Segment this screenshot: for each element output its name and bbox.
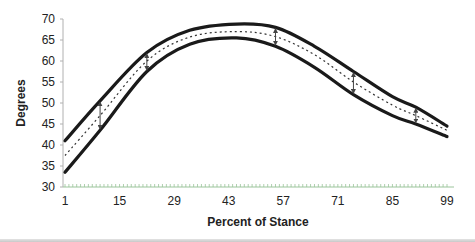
lower-bound-line (65, 38, 447, 172)
y-tick-label: 30 (42, 180, 56, 194)
x-axis: 115294357718599 (62, 184, 454, 208)
y-tick-label: 50 (42, 96, 56, 110)
x-tick-label: 29 (167, 194, 181, 208)
x-tick-label: 99 (440, 194, 454, 208)
y-tick-label: 35 (42, 159, 56, 173)
x-tick-label: 43 (222, 194, 236, 208)
y-tick-label: 55 (42, 75, 56, 89)
y-axis: 303540455055606570 (42, 12, 63, 194)
x-tick-label: 15 (113, 194, 127, 208)
y-tick-label: 65 (42, 33, 56, 47)
x-tick-label: 71 (331, 194, 345, 208)
y-tick-label: 45 (42, 117, 56, 131)
x-tick-label: 57 (277, 194, 291, 208)
y-tick-label: 60 (42, 54, 56, 68)
annotation-layer (100, 30, 416, 127)
series-layer (65, 24, 447, 172)
y-axis-title: Degrees (14, 79, 28, 127)
x-tick-label: 85 (386, 194, 400, 208)
x-tick-label: 1 (62, 194, 69, 208)
y-tick-label: 70 (42, 12, 56, 26)
chart: 303540455055606570 115294357718599 Degre… (0, 0, 475, 242)
y-tick-label: 40 (42, 138, 56, 152)
x-axis-title: Percent of Stance (207, 215, 309, 229)
